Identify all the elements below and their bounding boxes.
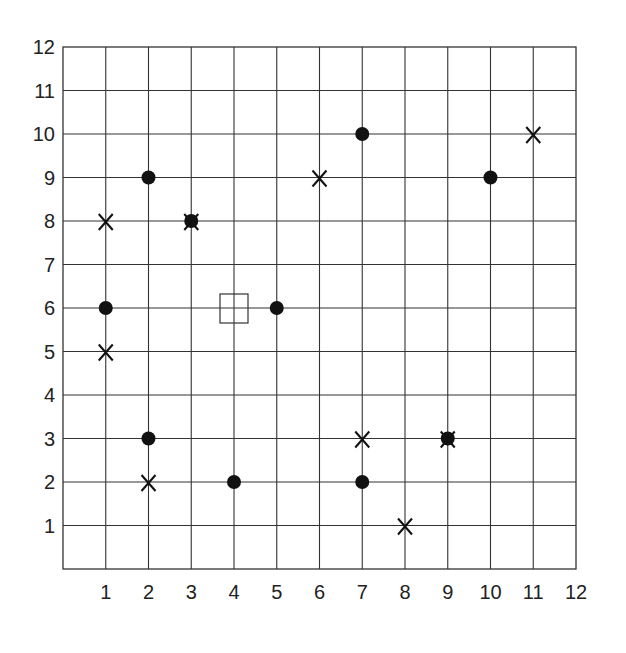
y-tick-label: 1 — [44, 515, 55, 537]
y-tick-label: 7 — [44, 254, 55, 276]
dot-marker — [142, 432, 156, 446]
y-tick-label: 11 — [34, 80, 55, 102]
grid-lines — [63, 47, 576, 569]
y-tick-label: 2 — [44, 471, 55, 493]
dot-marker — [270, 301, 284, 315]
dot-marker — [484, 171, 498, 185]
x-tick-label: 8 — [399, 581, 410, 603]
dot-marker — [227, 475, 241, 489]
x-tick-label: 11 — [523, 581, 544, 603]
coordinate-grid-chart: 123456789101112 123456789101112 — [0, 0, 626, 653]
dot-marker — [441, 432, 455, 446]
dot-marker — [355, 475, 369, 489]
dot-marker — [184, 214, 198, 228]
y-axis-tick-labels: 123456789101112 — [33, 36, 55, 537]
x-tick-label: 7 — [357, 581, 368, 603]
x-tick-label: 5 — [271, 581, 282, 603]
y-tick-label: 8 — [44, 210, 55, 232]
x-tick-label: 6 — [314, 581, 325, 603]
y-tick-label: 3 — [44, 428, 55, 450]
y-tick-label: 9 — [44, 167, 55, 189]
dot-marker — [355, 127, 369, 141]
x-tick-label: 3 — [186, 581, 197, 603]
y-tick-label: 12 — [33, 36, 55, 58]
x-tick-label: 2 — [143, 581, 154, 603]
dot-marker — [142, 171, 156, 185]
x-tick-label: 4 — [228, 581, 239, 603]
x-tick-label: 1 — [100, 581, 111, 603]
x-tick-label: 12 — [565, 581, 587, 603]
y-tick-label: 4 — [44, 384, 55, 406]
y-tick-label: 5 — [44, 341, 55, 363]
x-tick-label: 9 — [442, 581, 453, 603]
dot-marker — [99, 301, 113, 315]
y-tick-label: 6 — [44, 297, 55, 319]
x-axis-tick-labels: 123456789101112 — [100, 581, 587, 603]
y-tick-label: 10 — [33, 123, 55, 145]
x-tick-label: 10 — [479, 581, 501, 603]
